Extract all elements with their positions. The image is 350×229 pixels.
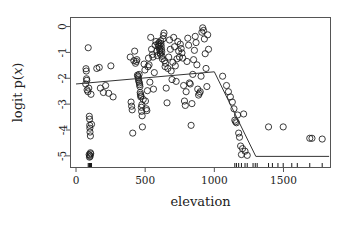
y-tick-label: -3 [57, 99, 69, 109]
x-tick-label: 500 [135, 174, 155, 186]
y-tick-label: 0 [57, 23, 69, 30]
x-tick-label: 0 [73, 174, 80, 186]
x-tick-label: 1500 [270, 174, 297, 186]
x-axis-label: elevation [170, 194, 231, 209]
ylabel-part-prefix: logit [10, 89, 25, 123]
plot-canvas: 050010001500 0-1-2-3-4-5 elevation logit… [0, 0, 350, 229]
y-axis-label: logit p(x) [10, 63, 25, 123]
y-tick-label: -2 [57, 73, 69, 83]
y-tick-label: -1 [57, 47, 69, 57]
scatter-plot-figure: 050010001500 0-1-2-3-4-5 elevation logit… [0, 0, 350, 229]
x-tick-label: 1000 [201, 174, 228, 186]
ylabel-part-p: p [10, 80, 25, 88]
y-tick-label: -5 [57, 151, 69, 161]
y-tick-label: -4 [57, 125, 69, 136]
ylabel-part-close: ) [10, 63, 25, 68]
